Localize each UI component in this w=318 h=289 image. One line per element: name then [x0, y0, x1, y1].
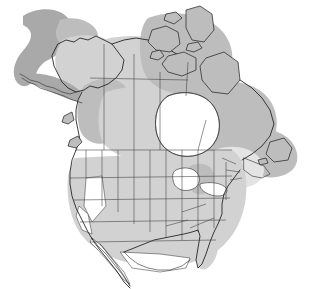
map-figure [0, 0, 318, 289]
island-queen-charlotte [62, 112, 74, 124]
north-america-map [0, 0, 318, 289]
region-great-lakes [173, 168, 200, 191]
